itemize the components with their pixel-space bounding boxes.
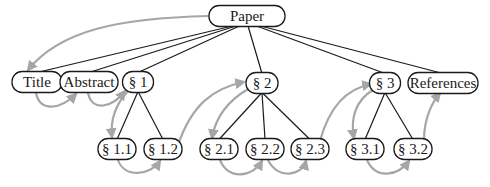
node-refs: References — [408, 73, 478, 94]
reading-order-arrow-s2-s21 — [212, 88, 250, 138]
node-label: § 2.3 — [295, 141, 325, 157]
node-s3: § 3 — [370, 73, 401, 94]
node-label: § 2 — [253, 75, 272, 91]
reading-order-arrow-s12-s2 — [178, 82, 244, 145]
node-s23: § 2.3 — [291, 139, 329, 160]
diagram-canvas: PaperTitleAbstract§ 1§ 2§ 3References§ 1… — [0, 0, 490, 187]
tree-edge-s2-s23 — [262, 93, 310, 140]
reading-order-arrow-s21-s22 — [220, 160, 262, 174]
node-s32: § 3.2 — [394, 139, 432, 160]
tree-edge-paper-refs — [259, 26, 443, 74]
node-label: § 2.1 — [204, 141, 234, 157]
node-title: Title — [12, 72, 62, 93]
node-label: Title — [23, 74, 51, 90]
node-s31: § 3.1 — [346, 139, 384, 160]
tree-edge-s3-s32 — [385, 93, 413, 140]
tree-edge-paper-title — [37, 26, 234, 73]
node-s12: § 1.2 — [144, 139, 182, 160]
tree-edge-s2-s22 — [262, 93, 265, 140]
tree-edge-s2-s21 — [219, 93, 262, 140]
reading-order-arrow-s31-s32 — [367, 160, 409, 174]
reading-order-arrow-s23-s3 — [320, 84, 371, 141]
node-label: Paper — [230, 8, 264, 24]
reading-order-arrow-s3-s31 — [353, 90, 373, 138]
tree-edge-paper-s1 — [138, 26, 240, 73]
reading-order-arrow-s11-s12 — [118, 160, 160, 173]
reading-order-arrow-s32-refs — [424, 93, 440, 140]
node-s21: § 2.1 — [200, 139, 238, 160]
node-label: § 1.2 — [148, 141, 178, 157]
tree-edge-s1-s11 — [117, 92, 138, 140]
node-label: Abstract — [64, 74, 116, 90]
tree-edge-paper-abstract — [89, 26, 238, 73]
node-abstract: Abstract — [60, 72, 118, 93]
tree-edge-paper-s3 — [255, 26, 385, 74]
reading-order-arrow-title-abstract — [36, 93, 76, 107]
node-s2: § 2 — [246, 73, 278, 94]
node-s1: § 1 — [123, 72, 154, 93]
tree-edge-s3-s31 — [365, 93, 385, 140]
tree-diagram: PaperTitleAbstract§ 1§ 2§ 3References§ 1… — [0, 0, 490, 187]
node-label: § 1 — [129, 74, 148, 90]
node-s11: § 1.1 — [98, 139, 136, 160]
node-label: § 3 — [376, 75, 395, 91]
tree-edge-paper-s2 — [248, 26, 262, 74]
nodes: PaperTitleAbstract§ 1§ 2§ 3References§ 1… — [12, 6, 478, 160]
node-label: § 3.2 — [398, 141, 428, 157]
node-label: § 2.2 — [250, 141, 280, 157]
reading-order-arrow-s22-s23 — [268, 160, 306, 174]
node-s22: § 2.2 — [246, 139, 284, 160]
tree-edge-s1-s12 — [138, 92, 163, 140]
node-label: References — [410, 75, 477, 91]
node-label: § 1.1 — [102, 141, 132, 157]
node-label: § 3.1 — [350, 141, 380, 157]
node-paper: Paper — [209, 6, 285, 27]
